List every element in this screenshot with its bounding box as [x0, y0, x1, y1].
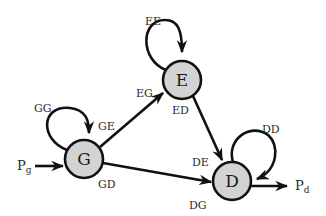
- input-label-pg: Pg: [17, 158, 32, 175]
- state-diagram: E G D EE EG ED GG GE GD DE DD DG Pg Pd: [0, 0, 326, 216]
- label-dg: DG: [189, 199, 207, 212]
- node-e: E: [163, 61, 201, 99]
- output-label-pd: Pd: [295, 178, 310, 195]
- node-d-label: D: [225, 171, 239, 191]
- label-ed: ED: [172, 104, 189, 117]
- label-dd: DD: [262, 123, 280, 136]
- node-e-label: E: [176, 70, 188, 90]
- edge-ed: [193, 96, 222, 160]
- label-gg: GG: [34, 102, 52, 115]
- label-de: DE: [192, 156, 209, 169]
- node-g: G: [65, 140, 103, 178]
- label-eg: EG: [136, 87, 153, 100]
- node-g-label: G: [77, 149, 91, 169]
- label-ee: EE: [145, 15, 161, 28]
- label-ge: GE: [98, 120, 115, 133]
- label-gd: GD: [98, 178, 116, 191]
- node-d: D: [213, 162, 251, 200]
